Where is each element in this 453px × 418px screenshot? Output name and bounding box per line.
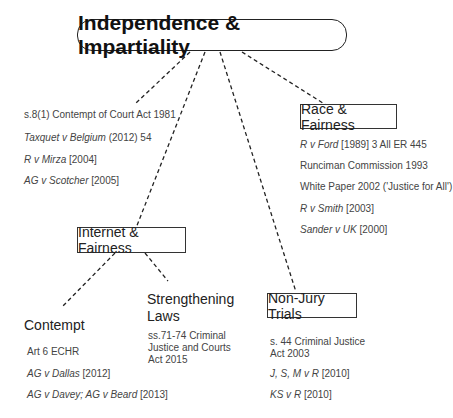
internet-fairness-node: Internet & Fairness — [77, 227, 186, 253]
left-list-item: AG v Scotcher [2005] — [24, 175, 119, 187]
connector-title-race — [242, 52, 326, 105]
internet-fairness-label: Internet & Fairness — [78, 224, 185, 256]
strengthening-item: ss.71-74 Criminal Justice and Courts Act… — [148, 330, 244, 366]
contempt-heading: Contempt — [24, 317, 85, 334]
race-item: Sander v UK [2000] — [300, 224, 387, 236]
non-jury-trials-node: Non-Jury Trials — [267, 293, 357, 318]
nonjury-item: s. 44 Criminal Justice Act 2003 — [270, 336, 366, 360]
nonjury-item: KS v R [2010] — [270, 389, 332, 401]
central-topic-label: Independence & Impartiality — [78, 11, 346, 59]
contempt-item: AG v Dallas [2012] — [27, 368, 110, 380]
left-list-item: Taxquet v Belgium (2012) 54 — [24, 132, 152, 144]
race-item: Runciman Commission 1993 — [300, 160, 428, 172]
connector-title-nonjury — [220, 52, 296, 292]
connector-title-left-list — [135, 52, 190, 104]
contempt-item: AG v Davey; AG v Beard [2013] — [27, 389, 168, 401]
left-list-item: s.8(1) Contempt of Court Act 1981 — [24, 109, 176, 121]
connector-internet-contempt — [62, 253, 115, 307]
race-item: R v Smith [2003] — [300, 203, 374, 215]
race-item: White Paper 2002 ('Justice for All') — [300, 181, 452, 193]
strengthening-laws-heading: Strengthening Laws — [147, 291, 234, 325]
non-jury-trials-label: Non-Jury Trials — [268, 290, 356, 322]
contempt-item: Art 6 ECHR — [27, 346, 79, 358]
connector-internet-strengthening — [145, 253, 168, 281]
nonjury-item: J, S, M v R [2010] — [270, 368, 350, 380]
central-topic: Independence & Impartiality — [77, 19, 347, 51]
race-item: R v Ford [1989] 3 All ER 445 — [300, 139, 427, 151]
race-fairness-node: Race & Fairness — [300, 104, 397, 129]
left-list-item: R v Mirza [2004] — [24, 154, 97, 166]
race-fairness-label: Race & Fairness — [301, 101, 396, 133]
